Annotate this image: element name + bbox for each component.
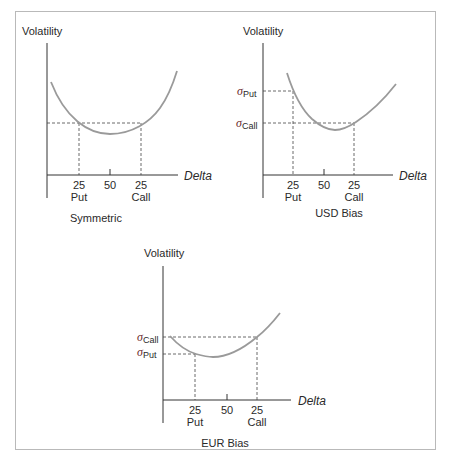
tick-label-put-delta: 25 <box>189 404 201 416</box>
tick-label-put-delta: 25 <box>73 179 85 191</box>
tick-label-call-delta: 25 <box>348 179 360 191</box>
x-axis-label: Delta <box>298 394 326 408</box>
y-axis-label: Volatility <box>144 247 185 259</box>
sigma-call-label: σCall <box>236 116 257 131</box>
tick-label-50: 50 <box>318 179 330 191</box>
x-axis-label: Delta <box>184 169 212 183</box>
panel-caption: Symmetric <box>70 212 122 224</box>
panel-caption: EUR Bias <box>201 437 249 449</box>
volatility-smile-curve <box>51 71 177 134</box>
tick-label-put: Put <box>285 191 302 203</box>
tick-label-call: Call <box>132 191 151 203</box>
sigma-call-label: σCall <box>137 330 158 345</box>
panel-symmetric: Volatility Delta 25 Put 50 25 Call Symme… <box>22 25 212 224</box>
y-axis-label: Volatility <box>22 25 63 37</box>
y-axis-label: Volatility <box>243 25 284 37</box>
tick-label-call: Call <box>248 416 267 428</box>
sigma-put-label: σPut <box>137 345 157 360</box>
tick-label-put-delta: 25 <box>287 179 299 191</box>
volatility-smile-curve <box>170 313 280 357</box>
panel-usd-bias: Volatility Delta σPut σCall 25 Put 50 25… <box>236 25 427 219</box>
volatility-smile-curve <box>287 73 396 130</box>
x-axis-label: Delta <box>399 169 427 183</box>
tick-label-call: Call <box>345 191 364 203</box>
tick-label-call-delta: 25 <box>135 179 147 191</box>
tick-label-put: Put <box>71 191 88 203</box>
sigma-put-label: σPut <box>237 84 257 99</box>
tick-label-call-delta: 25 <box>251 404 263 416</box>
panel-caption: USD Bias <box>315 207 363 219</box>
panel-eur-bias: Volatility Delta σCall σPut 25 Put 50 25… <box>137 247 326 449</box>
tick-label-50: 50 <box>104 179 116 191</box>
tick-label-50: 50 <box>221 404 233 416</box>
tick-label-put: Put <box>187 416 204 428</box>
